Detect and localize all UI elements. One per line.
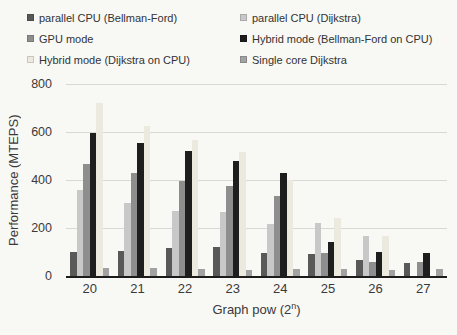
bar-x20-series4 bbox=[96, 103, 103, 276]
bar-x27-series5 bbox=[436, 269, 443, 276]
legend-label: parallel CPU (Bellman-Ford) bbox=[39, 12, 177, 24]
x-tick-label-20: 20 bbox=[66, 281, 114, 296]
bar-x24-series5 bbox=[293, 269, 300, 276]
y-tick-label-0: 0 bbox=[45, 269, 52, 283]
x-tick-label-23: 23 bbox=[209, 281, 257, 296]
legend-item-hybrid-dijkstra: Hybrid mode (Dijkstra on CPU) bbox=[27, 54, 240, 66]
legend-swatch-icon bbox=[27, 14, 34, 21]
bar-x25-series4 bbox=[334, 218, 341, 276]
chart-figure: parallel CPU (Bellman-Ford) parallel CPU… bbox=[0, 0, 457, 335]
x-axis-line bbox=[66, 276, 447, 278]
y-tick-label-200: 200 bbox=[31, 221, 52, 235]
y-tick-label-800: 800 bbox=[31, 77, 52, 91]
plot-area bbox=[66, 84, 447, 276]
bar-x24-series4 bbox=[287, 180, 294, 276]
chart-legend: parallel CPU (Bellman-Ford) parallel CPU… bbox=[27, 7, 432, 70]
bar-x20-series5 bbox=[103, 268, 110, 276]
bar-x21-series4 bbox=[144, 126, 151, 276]
bar-x27-series0 bbox=[404, 263, 411, 276]
x-axis-title: Graph pow (2n) bbox=[66, 301, 447, 317]
x-tick-label-21: 21 bbox=[114, 281, 162, 296]
bar-group-24 bbox=[257, 84, 305, 276]
x-tick-label-26: 26 bbox=[352, 281, 400, 296]
x-tick-label-25: 25 bbox=[304, 281, 352, 296]
bar-x27-series3 bbox=[423, 253, 430, 276]
x-tick-label-24: 24 bbox=[257, 281, 305, 296]
bar-x25-series5 bbox=[341, 269, 348, 276]
bar-group-25 bbox=[304, 84, 352, 276]
bar-group-21 bbox=[114, 84, 162, 276]
bar-group-20 bbox=[66, 84, 114, 276]
legend-swatch-icon bbox=[240, 35, 247, 42]
legend-label: Hybrid mode (Dijkstra on CPU) bbox=[39, 54, 190, 66]
legend-label: GPU mode bbox=[39, 33, 93, 45]
bar-group-26 bbox=[352, 84, 400, 276]
x-tick-label-27: 27 bbox=[399, 281, 447, 296]
bar-x21-series5 bbox=[150, 268, 157, 276]
y-axis-ticks: 0200400600800 bbox=[0, 84, 59, 276]
x-tick-label-22: 22 bbox=[161, 281, 209, 296]
bar-group-27 bbox=[399, 84, 447, 276]
y-tick-label-400: 400 bbox=[31, 173, 52, 187]
bar-group-23 bbox=[209, 84, 257, 276]
legend-item-parallel-cpu-dijkstra: parallel CPU (Dijkstra) bbox=[240, 12, 432, 24]
legend-label: parallel CPU (Dijkstra) bbox=[252, 12, 361, 24]
y-tick-label-600: 600 bbox=[31, 125, 52, 139]
bar-x22-series5 bbox=[198, 269, 205, 276]
x-axis-ticks: 2021222324252627 bbox=[66, 281, 447, 296]
bar-group-22 bbox=[161, 84, 209, 276]
bar-x22-series4 bbox=[192, 140, 199, 276]
legend-item-gpu-mode: GPU mode bbox=[27, 33, 240, 45]
legend-swatch-icon bbox=[240, 14, 247, 21]
legend-swatch-icon bbox=[27, 56, 34, 63]
legend-label: Hybrid mode (Bellman-Ford on CPU) bbox=[252, 33, 432, 45]
legend-swatch-icon bbox=[240, 56, 247, 63]
legend-item-parallel-cpu-bellman-ford: parallel CPU (Bellman-Ford) bbox=[27, 12, 240, 24]
bar-x23-series4 bbox=[239, 152, 246, 276]
legend-swatch-icon bbox=[27, 35, 34, 42]
bar-groups bbox=[66, 84, 447, 276]
legend-item-single-core-dijkstra: Single core Dijkstra bbox=[240, 54, 432, 66]
legend-label: Single core Dijkstra bbox=[252, 54, 347, 66]
legend-item-hybrid-bellman-ford: Hybrid mode (Bellman-Ford on CPU) bbox=[240, 33, 432, 45]
